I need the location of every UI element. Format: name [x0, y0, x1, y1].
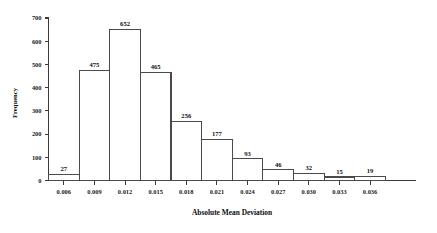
bar-value-label: 32 [306, 164, 313, 171]
histogram-bar [294, 173, 325, 180]
histogram-bar [324, 177, 355, 180]
y-tick-label: 500 [32, 61, 42, 68]
y-tick-label: 300 [32, 107, 42, 114]
histogram-bar [202, 139, 233, 180]
bar-value-label: 15 [336, 168, 343, 175]
x-tick-label: 0.006 [57, 188, 72, 195]
x-axis-title: Absolute Mean Deviation [192, 208, 272, 217]
y-tick-label: 200 [32, 130, 42, 137]
histogram-bar [49, 174, 80, 180]
y-axis-title: Frequency [11, 87, 18, 118]
x-tick-label: 0.018 [179, 188, 193, 195]
histogram-bar [171, 121, 202, 180]
histogram-bar [355, 176, 386, 180]
x-tick-label: 0.036 [363, 188, 378, 195]
bar-group [49, 29, 386, 180]
bar-value-label: 465 [151, 63, 162, 70]
x-tick-label: 0.027 [271, 188, 286, 195]
y-tick-label: 700 [32, 14, 42, 21]
y-tick-label: 400 [32, 84, 42, 91]
histogram-bar [110, 29, 141, 180]
histogram-bar [79, 70, 110, 180]
y-tick-label: 100 [32, 154, 42, 161]
x-tick-label: 0.009 [87, 188, 101, 195]
histogram-chart: 0100200300400500600700 0.0060.0090.0120.… [0, 0, 437, 233]
histogram-bar [232, 159, 263, 181]
x-tick-label: 0.033 [332, 188, 346, 195]
x-tick-group: 0.0060.0090.0120.0150.0180.0210.0240.027… [57, 181, 378, 196]
histogram-bar [263, 170, 294, 181]
x-tick-label: 0.030 [302, 188, 316, 195]
bar-value-label: 256 [181, 112, 192, 119]
x-tick-label: 0.021 [210, 188, 224, 195]
y-tick-label: 0 [38, 177, 41, 184]
x-tick-label: 0.012 [118, 188, 132, 195]
y-tick-group: 0100200300400500600700 [32, 14, 49, 184]
x-tick-label: 0.015 [148, 188, 162, 195]
y-tick-label: 600 [32, 38, 42, 45]
bar-value-label: 652 [120, 20, 131, 27]
x-tick-label: 0.024 [240, 188, 255, 195]
histogram-bar [140, 73, 171, 181]
histogram-plot-area: 0100200300400500600700 0.0060.0090.0120.… [0, 0, 437, 233]
bar-value-label: 475 [89, 61, 100, 68]
bar-value-label: 93 [244, 150, 251, 157]
bar-value-label: 27 [61, 165, 68, 172]
bar-value-label: 177 [212, 130, 223, 137]
bar-value-label: 46 [275, 161, 282, 168]
bar-value-label: 19 [367, 167, 374, 174]
